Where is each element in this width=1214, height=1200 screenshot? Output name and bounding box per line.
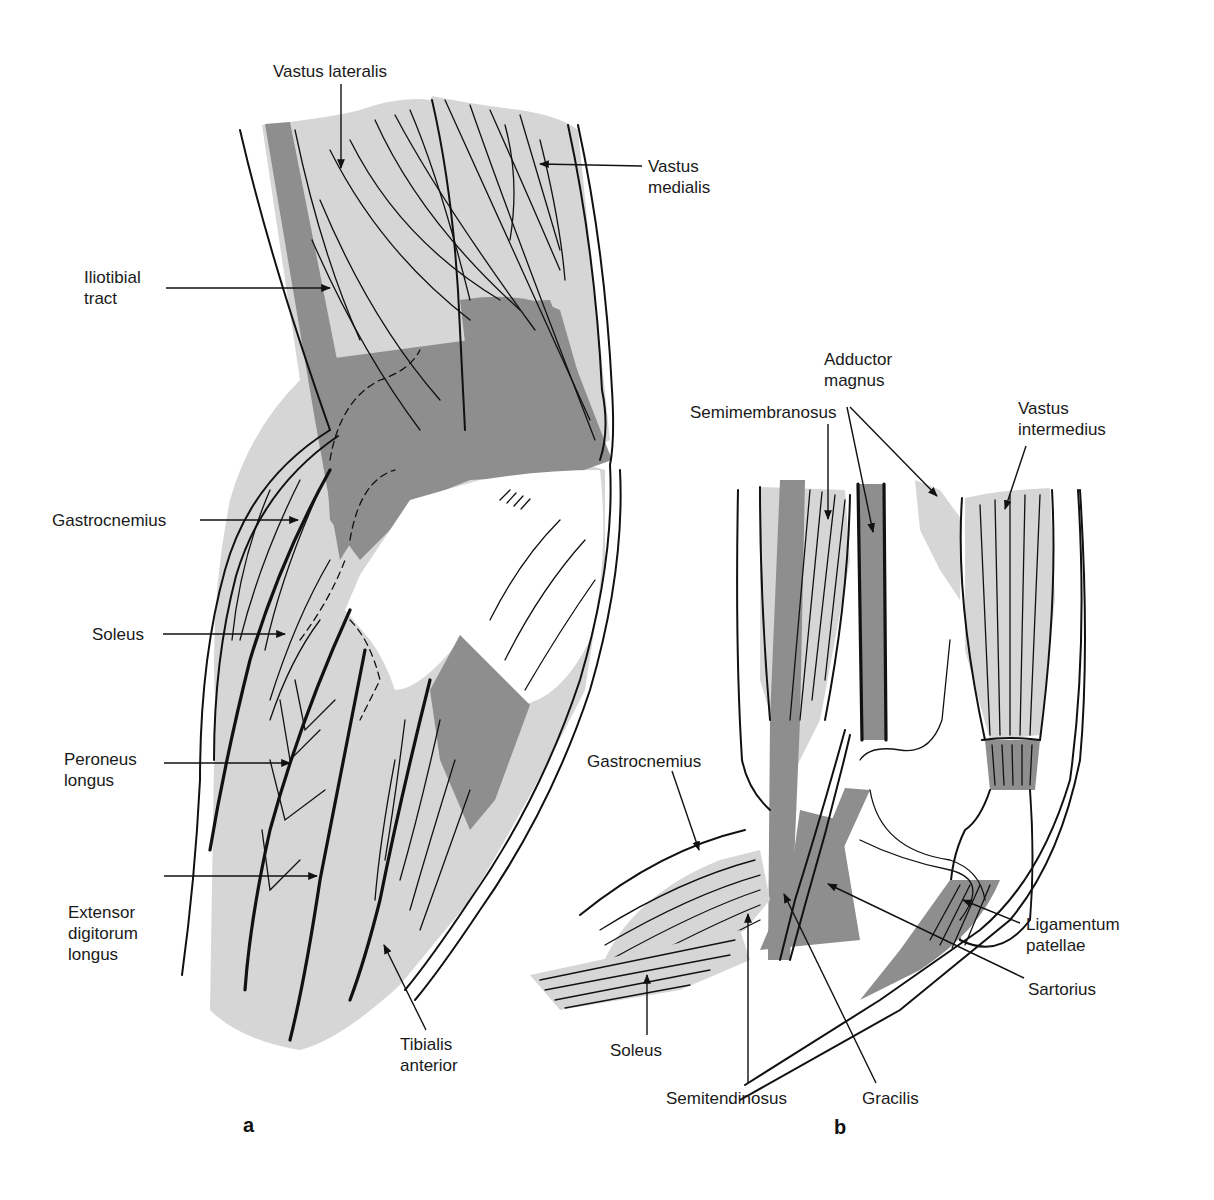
label-ligamentum-patellae: Ligamentum patellae [1026, 915, 1124, 955]
label-vastus-medialis: Vastus medialis [648, 157, 710, 197]
label-soleus-b: Soleus [610, 1041, 662, 1060]
label-peroneus-longus: Peroneus longus [64, 750, 142, 790]
panel-label-a: a [243, 1114, 255, 1136]
label-gastrocnemius-b: Gastrocnemius [587, 752, 701, 771]
label-adductor-magnus: Adductor magnus [824, 350, 897, 390]
label-gracilis: Gracilis [862, 1089, 919, 1108]
label-semimembranosus: Semimembranosus [690, 403, 836, 422]
label-iliotibial-tract: Iliotibial tract [84, 268, 145, 308]
knee-muscle-diagram: Vastus lateralis Vastus medialis Iliotib… [0, 0, 1214, 1200]
label-tibialis-anterior: Tibialis anterior [400, 1035, 458, 1075]
panel-label-b: b [834, 1116, 846, 1138]
label-soleus-a: Soleus [92, 625, 144, 644]
panel-b-labels: Adductor magnus Semimembranosus Vastus i… [587, 350, 1124, 1138]
label-extensor-digitorum-longus: Extensor digitorum longus [68, 903, 143, 964]
label-semitendinosus: Semitendinosus [666, 1089, 787, 1108]
label-gastrocnemius-a: Gastrocnemius [52, 511, 166, 530]
label-vastus-lateralis: Vastus lateralis [273, 62, 387, 81]
panel-b-illustration [530, 480, 1085, 1100]
label-vastus-intermedius: Vastus intermedius [1018, 399, 1106, 439]
label-sartorius: Sartorius [1028, 980, 1096, 999]
panel-a-illustration [182, 96, 621, 1050]
